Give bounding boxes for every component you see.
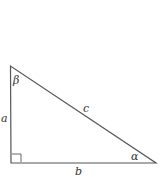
right-triangle-diagram: β a c α b xyxy=(0,0,166,177)
side-c-label: c xyxy=(83,102,89,115)
right-angle-marker xyxy=(12,154,21,162)
side-b-label: b xyxy=(75,165,82,177)
angle-beta-label: β xyxy=(12,74,19,87)
side-a-label: a xyxy=(1,112,8,125)
angle-alpha-label: α xyxy=(131,150,139,163)
